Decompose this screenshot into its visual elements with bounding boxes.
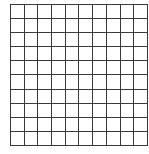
grid-cell: [38, 104, 52, 118]
grid-cell: [52, 104, 66, 118]
grid-cell: [107, 61, 121, 75]
grid-cell: [11, 19, 25, 33]
grid-cell: [134, 75, 148, 89]
grid-cell: [66, 90, 80, 104]
grid-cell: [38, 75, 52, 89]
grid-cell: [134, 19, 148, 33]
grid-cell: [66, 61, 80, 75]
grid-cell: [107, 75, 121, 89]
grid-cell: [11, 33, 25, 47]
grid-cell: [38, 90, 52, 104]
grid-cell: [25, 5, 39, 19]
grid-cell: [52, 132, 66, 146]
grid-cell: [107, 132, 121, 146]
grid-cell: [52, 33, 66, 47]
grid-cell: [134, 47, 148, 61]
grid-cell: [121, 47, 135, 61]
grid-cell: [52, 19, 66, 33]
grid-cell: [107, 118, 121, 132]
grid-cell: [121, 5, 135, 19]
grid-cell: [93, 19, 107, 33]
grid-cell: [79, 104, 93, 118]
grid-cell: [107, 47, 121, 61]
grid-cell: [93, 104, 107, 118]
grid-cell: [11, 47, 25, 61]
grid-cell: [93, 47, 107, 61]
grid-cell: [79, 33, 93, 47]
grid-cell: [11, 104, 25, 118]
grid-cell: [79, 90, 93, 104]
grid-cell: [93, 132, 107, 146]
grid-cell: [93, 61, 107, 75]
grid-cell: [38, 61, 52, 75]
grid-cell: [93, 75, 107, 89]
grid-cell: [38, 5, 52, 19]
grid-cell: [107, 33, 121, 47]
grid-cell: [79, 61, 93, 75]
grid-cell: [25, 132, 39, 146]
grid-cell: [25, 118, 39, 132]
grid-cell: [107, 104, 121, 118]
grid-cell: [121, 104, 135, 118]
grid-cell: [134, 61, 148, 75]
grid-cell: [66, 47, 80, 61]
grid-cell: [38, 132, 52, 146]
grid-cell: [121, 90, 135, 104]
grid-cell: [25, 19, 39, 33]
grid-cell: [93, 5, 107, 19]
grid-cell: [52, 75, 66, 89]
grid-cell: [25, 61, 39, 75]
grid-cell: [11, 61, 25, 75]
grid-cell: [93, 33, 107, 47]
grid-cell: [38, 33, 52, 47]
grid-cell: [79, 75, 93, 89]
grid-cell: [38, 118, 52, 132]
grid-cell: [25, 47, 39, 61]
grid-cell: [66, 104, 80, 118]
grid-cell: [11, 75, 25, 89]
grid-cell: [79, 47, 93, 61]
grid-cell: [134, 90, 148, 104]
grid-cell: [11, 118, 25, 132]
grid-cell: [93, 118, 107, 132]
grid-cell: [11, 5, 25, 19]
grid-cell: [52, 61, 66, 75]
grid-cell: [79, 5, 93, 19]
grid-cell: [134, 104, 148, 118]
grid-cell: [25, 33, 39, 47]
grid-cell: [66, 19, 80, 33]
grid-cell: [66, 118, 80, 132]
grid-cell: [25, 90, 39, 104]
grid-cell: [52, 47, 66, 61]
grid-cell: [93, 90, 107, 104]
grid-cell: [52, 5, 66, 19]
grid-cell: [38, 47, 52, 61]
grid-cell: [107, 19, 121, 33]
grid-cell: [66, 5, 80, 19]
grid-cell: [121, 33, 135, 47]
grid-10x10: [10, 4, 148, 146]
grid-cell: [134, 33, 148, 47]
grid-cell: [79, 132, 93, 146]
grid-cell: [121, 118, 135, 132]
grid-cell: [11, 90, 25, 104]
grid-cell: [11, 132, 25, 146]
grid-cell: [52, 118, 66, 132]
grid-cell: [121, 19, 135, 33]
grid-cell: [134, 5, 148, 19]
grid-cell: [107, 5, 121, 19]
grid-cell: [52, 90, 66, 104]
grid-cell: [79, 118, 93, 132]
grid-cell: [134, 132, 148, 146]
grid-cell: [66, 132, 80, 146]
grid-cell: [121, 75, 135, 89]
grid-cell: [38, 19, 52, 33]
grid-cell: [121, 132, 135, 146]
grid-cell: [121, 61, 135, 75]
grid-cell: [25, 75, 39, 89]
grid-cell: [134, 118, 148, 132]
grid-cell: [79, 19, 93, 33]
grid-cell: [107, 90, 121, 104]
grid-cell: [66, 33, 80, 47]
grid-cell: [25, 104, 39, 118]
